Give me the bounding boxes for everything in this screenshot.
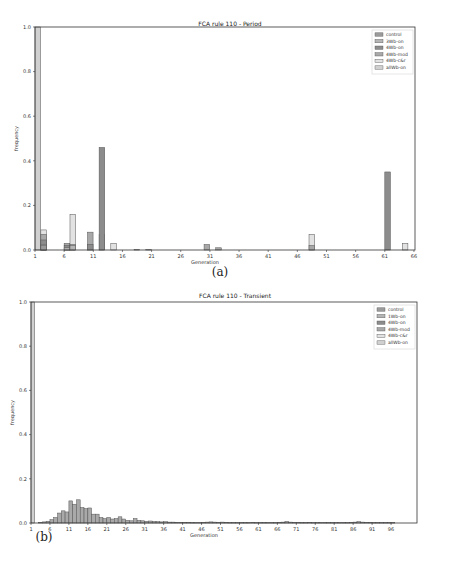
figure-b: FCA rule 110 - Transient 0.00.20.40.60.8…	[0, 285, 452, 569]
x-tick-label: 61	[382, 253, 388, 259]
histogram-bar	[61, 511, 65, 523]
x-tick-label: 21	[148, 253, 154, 259]
histogram-bar	[70, 246, 76, 250]
x-tick-label: 66	[274, 526, 280, 532]
legend-label: 4Wb-on	[388, 320, 406, 325]
histogram-bar	[133, 519, 137, 523]
histogram-bar	[103, 519, 107, 523]
legend-label: 4Wb-c&r	[388, 333, 408, 338]
y-axis-label: frequency	[13, 126, 20, 151]
histogram-bar	[99, 147, 105, 250]
legend-label: allWb-on	[386, 65, 406, 70]
histogram-bar	[88, 508, 92, 523]
x-tick-label: 41	[179, 526, 185, 532]
histogram-bar	[385, 172, 391, 250]
legend-label: 4Wb-on	[386, 45, 404, 50]
figure-a: FCA rule 110 - Period 0.00.20.40.60.81.0…	[0, 0, 452, 285]
x-tick-label: 36	[160, 526, 166, 532]
histogram-bar	[402, 243, 408, 250]
histogram-bar	[76, 500, 80, 523]
y-tick-label: 0.8	[19, 343, 27, 349]
x-tick-label: 51	[323, 253, 329, 259]
histogram-bar	[99, 517, 103, 523]
legend-swatch	[377, 321, 385, 324]
figure-caption-a: (a)	[200, 265, 240, 279]
y-tick-label: 0.2	[23, 202, 31, 208]
legend-swatch	[377, 341, 385, 344]
legend-swatch	[377, 334, 385, 337]
plot-frame	[31, 302, 417, 523]
y-tick-label: 1.0	[23, 24, 31, 30]
histogram-bar	[111, 243, 117, 250]
legend-swatch	[375, 53, 383, 56]
x-tick-label: 76	[312, 526, 318, 532]
x-tick-label: 51	[217, 526, 223, 532]
chart-b-plot: 0.00.20.40.60.81.01611162126313641465156…	[0, 285, 452, 545]
y-tick-label: 0.6	[19, 387, 27, 393]
legend-swatch	[375, 33, 383, 36]
x-tick-label: 86	[350, 526, 356, 532]
histogram-bar	[73, 504, 77, 523]
histogram-bar	[41, 246, 47, 250]
x-tick-label: 66	[411, 253, 417, 259]
histogram-bar	[65, 512, 69, 523]
x-tick-label: 71	[293, 526, 299, 532]
legend-label: control	[386, 32, 402, 37]
y-tick-label: 0.8	[23, 68, 31, 74]
legend-label: 1Wb-on	[388, 314, 406, 319]
x-tick-label: 61	[255, 526, 261, 532]
histogram-bar	[111, 519, 115, 523]
legend-swatch	[375, 39, 383, 42]
plot-frame	[35, 27, 415, 250]
legend-swatch	[377, 308, 385, 311]
histogram-bar	[92, 514, 96, 523]
histogram-bar	[50, 520, 54, 523]
histogram-bar	[87, 244, 93, 250]
chart-a-plot: 0.00.20.40.60.81.01611162126313641465156…	[0, 0, 452, 275]
x-tick-label: 31	[142, 526, 148, 532]
histogram-bar	[118, 517, 122, 523]
histogram-bar	[58, 513, 62, 523]
x-tick-label: 26	[178, 253, 184, 259]
y-tick-label: 0.0	[23, 247, 31, 253]
x-tick-label: 21	[104, 526, 110, 532]
histogram-bar	[69, 501, 73, 523]
y-tick-label: 0.4	[19, 431, 27, 437]
x-tick-label: 41	[265, 253, 271, 259]
x-tick-label: 1	[33, 253, 36, 259]
x-tick-label: 11	[90, 253, 96, 259]
x-axis-label: Generation	[190, 532, 218, 538]
legend-swatch	[375, 46, 383, 49]
x-tick-label: 16	[85, 526, 91, 532]
y-axis-label: frequency	[9, 400, 16, 425]
histogram-bar	[95, 514, 99, 523]
x-tick-label: 81	[331, 526, 337, 532]
legend-label: control	[388, 307, 404, 312]
legend-label: 3Wb-on	[386, 39, 404, 44]
y-tick-label: 0.4	[23, 158, 31, 164]
x-tick-label: 56	[352, 253, 358, 259]
x-tick-label: 16	[119, 253, 125, 259]
legend-swatch	[377, 314, 385, 317]
x-tick-label: 6	[63, 253, 66, 259]
histogram-bar	[54, 517, 58, 523]
legend-swatch	[375, 66, 383, 69]
legend-label: 4Wb-c&r	[386, 58, 406, 63]
histogram-bar	[204, 244, 210, 250]
x-tick-label: 96	[388, 526, 394, 532]
x-tick-label: 56	[236, 526, 242, 532]
x-tick-label: 11	[66, 526, 72, 532]
x-tick-label: 26	[123, 526, 129, 532]
histogram-bar	[114, 519, 118, 523]
y-tick-label: 0.6	[23, 113, 31, 119]
x-tick-label: 36	[236, 253, 242, 259]
y-tick-label: 1.0	[19, 299, 27, 305]
histogram-bar	[309, 246, 315, 250]
legend-label: 4Wb-mod	[388, 327, 410, 332]
x-tick-label: 91	[369, 526, 375, 532]
figure-caption-b: (b)	[24, 530, 64, 544]
histogram-bar	[84, 509, 88, 523]
histogram-bar	[35, 27, 41, 250]
y-tick-label: 0.0	[19, 520, 27, 526]
legend-label: 4Wb-mod	[386, 52, 408, 57]
